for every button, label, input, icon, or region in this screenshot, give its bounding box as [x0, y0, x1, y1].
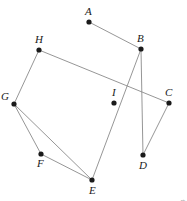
vertex-label-C: C	[165, 86, 173, 98]
vertex-point-B	[138, 46, 143, 51]
geometry-figure: ABHGICFDE © Cengage Learning 2014	[0, 0, 187, 201]
vertex-point-E	[89, 177, 94, 182]
segment-DC	[143, 103, 169, 155]
segment-HC	[39, 50, 169, 103]
segment-GE	[14, 104, 92, 180]
segment-FE	[41, 154, 92, 180]
vertex-label-E: E	[88, 184, 96, 196]
vertex-label-F: F	[36, 157, 44, 169]
vertex-point-F	[38, 151, 43, 156]
labels-layer: ABHGICFDE	[1, 5, 173, 196]
vertex-label-D: D	[138, 159, 147, 171]
vertex-point-D	[140, 152, 145, 157]
vertex-label-G: G	[1, 90, 9, 102]
segment-AB	[89, 22, 141, 49]
vertex-point-G	[11, 101, 16, 106]
segment-BE	[92, 49, 141, 180]
vertex-point-C	[166, 100, 171, 105]
vertex-label-I: I	[111, 86, 117, 98]
vertex-label-A: A	[84, 5, 92, 17]
segment-HG	[14, 50, 39, 104]
vertex-point-A	[86, 19, 91, 24]
segment-BD	[141, 49, 143, 155]
vertex-label-H: H	[34, 33, 44, 45]
vertex-label-B: B	[137, 32, 144, 44]
vertex-point-H	[36, 47, 41, 52]
segment-GF	[14, 104, 41, 154]
figure-canvas: ABHGICFDE	[0, 0, 187, 201]
vertex-point-I	[111, 100, 116, 105]
